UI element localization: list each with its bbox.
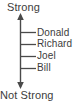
axis-bottom-label: Not Strong [0, 89, 54, 101]
axis-arrowhead-up-icon [17, 13, 24, 20]
axis-arrowhead-down-icon [17, 82, 24, 89]
tick-label-joel: Joel [37, 50, 56, 61]
tick-label-donald: Donald [37, 27, 69, 38]
tick-label-bill: Bill [37, 62, 51, 73]
tick-label-richard: Richard [37, 38, 72, 49]
strength-scale-diagram: Strong Donald Richard Joel Bill Not Stro… [0, 0, 76, 107]
